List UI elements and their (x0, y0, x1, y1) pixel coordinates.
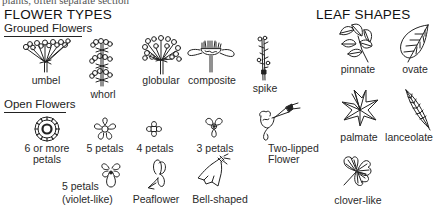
composite-icon (186, 40, 236, 72)
violet-label-line2: (violet-like) (62, 193, 122, 205)
lanceolate-leaf-icon (404, 88, 432, 132)
palmate-leaf-icon (340, 88, 380, 128)
violet-label-line1: 5 petals (62, 180, 112, 192)
three-petals-label: 3 petals (196, 142, 234, 154)
composite-label: composite (184, 74, 240, 86)
whorl-label: whorl (82, 88, 124, 100)
ovate-label: ovate (398, 63, 432, 75)
three-petals-icon (203, 116, 225, 138)
two-lipped-label-line2: Flower (268, 153, 328, 165)
leaf-shapes-title: LEAF SHAPES (316, 7, 411, 22)
four-petals-icon (143, 118, 165, 140)
bell-icon (194, 154, 234, 190)
five-petals-icon (93, 117, 117, 141)
whorl-icon (88, 38, 118, 86)
palmate-label: palmate (336, 131, 382, 143)
cropped-text-line: plants, often separate section (2, 0, 129, 6)
pinnate-label: pinnate (336, 63, 380, 75)
flower-types-title: FLOWER TYPES (4, 7, 112, 22)
two-lipped-icon (256, 102, 302, 142)
clover-leaf-icon (340, 155, 374, 189)
umbel-icon (22, 38, 72, 72)
clover-label: clover-like (330, 194, 386, 206)
peaflower-icon (146, 158, 170, 192)
peaflower-label: Peaflower (130, 193, 182, 205)
globular-label: globular (136, 74, 186, 86)
spike-label: spike (250, 82, 280, 94)
open-flowers-heading: Open Flowers (4, 98, 66, 113)
umbel-label: umbel (20, 74, 72, 86)
four-petals-label: 4 petals (136, 142, 174, 154)
pinnate-leaf-icon (338, 22, 378, 64)
six-petals-icon (34, 116, 60, 142)
lanceolate-label: lanceolate (382, 131, 436, 143)
five-petals-label: 5 petals (86, 142, 124, 154)
bell-label: Bell-shaped (190, 193, 250, 205)
grouped-flowers-heading: Grouped Flowers (4, 22, 82, 37)
globular-icon (142, 36, 182, 74)
ovate-leaf-icon (398, 24, 430, 62)
six-petals-label-line2: petals (24, 153, 70, 165)
spike-icon (256, 36, 272, 80)
